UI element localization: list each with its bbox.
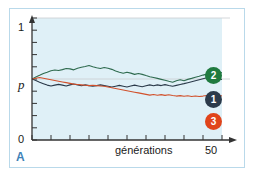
legend-badge-2: 2 bbox=[205, 67, 222, 84]
y-tick-label-p: p bbox=[18, 78, 25, 91]
panel-label: A bbox=[16, 150, 25, 164]
y-tick-label-min: 0 bbox=[18, 134, 24, 145]
figure-panel: 1 p 0 générations 50 2 1 3 A bbox=[0, 0, 254, 177]
x-tick-label-max: 50 bbox=[205, 145, 217, 156]
x-axis-title: générations bbox=[115, 145, 173, 156]
y-tick-label-max: 1 bbox=[18, 22, 24, 33]
legend-badge-1: 1 bbox=[205, 91, 222, 108]
x-axis-arrow bbox=[229, 137, 237, 143]
legend-badge-3: 3 bbox=[205, 113, 222, 130]
